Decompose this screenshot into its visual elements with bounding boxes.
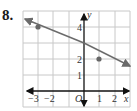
y-tick-1: 1 bbox=[77, 70, 82, 81]
y-tick-2: 2 bbox=[77, 54, 82, 65]
x-tick-neg2: −2 bbox=[44, 93, 55, 104]
origin-label: O bbox=[75, 93, 82, 104]
x-tick-1: 1 bbox=[97, 93, 102, 104]
x-tick-2: 2 bbox=[112, 93, 117, 104]
coordinate-plane: −3 −2 1 2 4 2 1 x y O bbox=[0, 0, 137, 111]
point-1-2 bbox=[96, 56, 101, 61]
plotted-line bbox=[25, 19, 84, 43]
y-tick-4: 4 bbox=[77, 22, 82, 33]
x-tick-neg3: −3 bbox=[28, 93, 39, 104]
x-axis-label: x bbox=[123, 93, 129, 104]
point-neg3-4 bbox=[35, 24, 40, 29]
y-axis-label: y bbox=[86, 9, 92, 20]
